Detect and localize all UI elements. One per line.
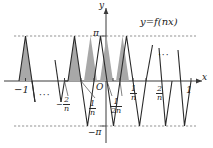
- fraction-numerator: 2: [63, 96, 70, 104]
- fraction-numerator: 1: [130, 85, 137, 93]
- y-axis-label: y: [99, 1, 104, 10]
- y-axis-arrow: [104, 8, 109, 14]
- x-tick-label-minus-one-over-n: 1 n: [89, 100, 96, 117]
- origin-label: O: [96, 83, 103, 92]
- x-tick-label-one: 1: [186, 85, 192, 95]
- fraction-sign: −: [56, 101, 63, 109]
- right-ellipsis: ···: [158, 51, 170, 60]
- fraction-numerator: 1: [89, 100, 96, 108]
- y-tick-label-pi: π: [93, 29, 99, 38]
- fraction-numerator: 1: [110, 98, 122, 106]
- fraction-denominator: n: [63, 104, 70, 113]
- x-tick-label-one-over-n: 1 n: [130, 85, 137, 102]
- x-tick-label-minus-one: −1: [14, 85, 29, 95]
- triangular-wave-plot: [0, 0, 213, 148]
- fraction-numerator: 2: [156, 85, 163, 93]
- left-ellipsis: ···: [39, 91, 51, 100]
- x-tick-label-one-over-2n: 1 2n: [110, 98, 122, 115]
- fraction-denominator: 2n: [110, 106, 122, 115]
- fraction-denominator: n: [89, 108, 96, 117]
- fraction-denominator: n: [156, 93, 163, 102]
- fraction-denominator: n: [130, 93, 137, 102]
- x-tick-label-two-over-n: 2 n: [156, 85, 163, 102]
- x-tick-label-minus-two-over-n: − 2 n: [63, 96, 70, 113]
- y-tick-label-minus-pi: −π: [88, 128, 101, 137]
- figure-canvas: y x y=f(nx) O π −π −1 1 ··· ··· − 2 n 1 …: [0, 0, 213, 148]
- x-axis-label: x: [202, 73, 207, 82]
- curve-equation-label: y=f(nx): [140, 17, 178, 27]
